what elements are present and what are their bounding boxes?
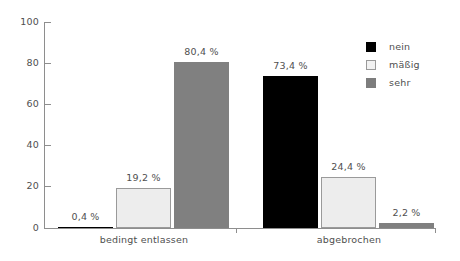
bar-abgebrochen-sehr[interactable]	[379, 223, 434, 228]
bar-value-abgebrochen-sehr: 2,2 %	[379, 208, 434, 218]
legend-label-sehr: sehr	[389, 78, 411, 88]
legend-swatch-maessig-icon	[366, 60, 376, 70]
bar-bedingt-entlassen-maessig[interactable]	[116, 188, 171, 228]
bar-abgebrochen-nein[interactable]	[263, 76, 318, 228]
legend-item-sehr[interactable]: sehr	[366, 74, 420, 92]
legend-item-maessig[interactable]: mäßig	[366, 56, 420, 74]
bar-value-bedingt-entlassen-nein: 0,4 %	[58, 212, 113, 222]
bar-bedingt-entlassen-sehr[interactable]	[174, 62, 229, 228]
legend-label-maessig: mäßig	[389, 60, 420, 70]
bar-bedingt-entlassen-nein[interactable]	[58, 227, 113, 228]
bar-abgebrochen-maessig[interactable]	[321, 177, 376, 228]
legend-label-nein: nein	[389, 42, 410, 52]
bar-value-abgebrochen-nein: 73,4 %	[263, 61, 318, 71]
legend: nein mäßig sehr	[366, 38, 420, 92]
bar-value-bedingt-entlassen-sehr: 80,4 %	[174, 47, 229, 57]
bar-value-bedingt-entlassen-maessig: 19,2 %	[116, 173, 171, 183]
legend-swatch-sehr-icon	[366, 78, 376, 88]
x-axis-category-label-bedingt-entlassen: bedingt entlassen	[58, 234, 230, 245]
bar-chart: 100 80 60 40 20 0 0,4 % 19,2 % 80,4 % 73…	[0, 0, 460, 261]
legend-swatch-nein-icon	[366, 42, 376, 52]
x-axis-category-label-abgebrochen: abgebrochen	[263, 234, 435, 245]
legend-item-nein[interactable]: nein	[366, 38, 420, 56]
bar-value-abgebrochen-maessig: 24,4 %	[321, 162, 376, 172]
